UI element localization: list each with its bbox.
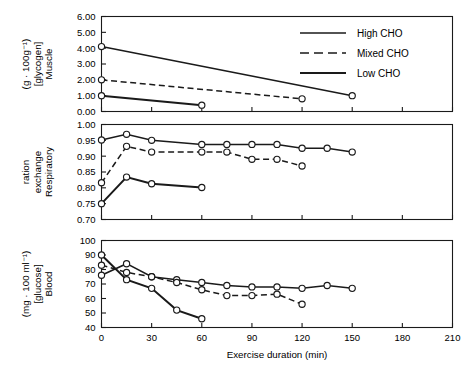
y-tick-label: 0.90	[77, 151, 96, 162]
series-line-mixed-cho	[102, 80, 303, 99]
y-axis-title-line: [glycogen]	[32, 41, 43, 86]
data-point-marker	[299, 285, 305, 291]
legend-label-mixed-cho: Mixed CHO	[357, 48, 409, 59]
panel-bottom: 405060708090100Blood[glucose](mg · 100 m…	[20, 235, 453, 333]
data-point-marker	[349, 285, 355, 291]
data-point-marker	[274, 156, 280, 162]
y-tick-label: 1.00	[77, 90, 96, 101]
data-point-marker	[274, 284, 280, 290]
y-tick-label: 100	[80, 235, 96, 246]
data-point-marker	[199, 149, 205, 155]
data-point-marker	[98, 272, 104, 278]
y-axis-title-line: (mg · 100 ml⁻¹)	[20, 251, 31, 318]
data-point-marker	[299, 163, 305, 169]
panel-middle: 0.700.750.800.850.900.951.00Respiratorye…	[20, 119, 453, 225]
data-point-marker	[349, 149, 355, 155]
data-point-marker	[98, 262, 104, 268]
data-point-marker	[149, 274, 155, 280]
data-point-marker	[174, 307, 180, 313]
series-line-high-cho	[102, 47, 353, 96]
data-point-marker	[249, 141, 255, 147]
y-tick-label: 60	[85, 293, 96, 304]
data-point-marker	[199, 102, 205, 108]
data-point-marker	[224, 282, 230, 288]
data-point-marker	[123, 261, 129, 267]
x-tick-label: 30	[146, 332, 157, 343]
y-tick-label: 0.85	[77, 166, 96, 177]
y-tick-label: 3.00	[77, 58, 96, 69]
y-tick-label: 2.00	[77, 74, 96, 85]
y-tick-label: 70	[85, 278, 96, 289]
data-point-marker	[299, 96, 305, 102]
x-tick-label: 120	[294, 332, 310, 343]
data-point-marker	[98, 137, 104, 143]
figure-container: 0.001.002.003.004.005.006.00Muscle[glyco…	[0, 0, 476, 378]
data-point-marker	[324, 282, 330, 288]
data-point-marker	[224, 149, 230, 155]
y-tick-label: 40	[85, 322, 96, 333]
y-tick-label: 0.00	[77, 106, 96, 117]
y-axis-title-line: Blood	[43, 271, 54, 296]
x-tick-label: 60	[196, 332, 207, 343]
y-tick-label: 1.00	[77, 119, 96, 130]
y-tick-label: 50	[85, 307, 96, 318]
series-line-low-cho	[102, 96, 202, 106]
data-point-marker	[274, 291, 280, 297]
data-point-marker	[123, 277, 129, 283]
data-point-marker	[224, 293, 230, 299]
y-axis-title-line: ration	[20, 160, 31, 185]
data-point-marker	[98, 180, 104, 186]
data-point-marker	[123, 269, 129, 275]
data-point-marker	[199, 287, 205, 293]
data-point-marker	[98, 77, 104, 83]
data-point-marker	[224, 141, 230, 147]
data-point-marker	[174, 279, 180, 285]
y-axis-title-line: Respiratory	[43, 147, 54, 197]
y-axis-title-line: (g · 100g⁻¹)	[20, 39, 31, 90]
y-axis-title-line: [glucose]	[32, 264, 43, 303]
data-point-marker	[299, 145, 305, 151]
data-point-marker	[249, 284, 255, 290]
data-point-marker	[199, 184, 205, 190]
data-point-marker	[199, 316, 205, 322]
data-point-marker	[349, 93, 355, 99]
y-tick-label: 0.70	[77, 214, 96, 225]
data-point-marker	[123, 143, 129, 149]
data-point-marker	[149, 149, 155, 155]
data-point-marker	[199, 279, 205, 285]
data-point-marker	[149, 181, 155, 187]
data-point-marker	[324, 145, 330, 151]
data-point-marker	[274, 141, 280, 147]
y-tick-label: 0.95	[77, 135, 96, 146]
data-point-marker	[98, 43, 104, 49]
data-point-marker	[199, 141, 205, 147]
legend: High CHOMixed CHOLow CHO	[300, 28, 409, 79]
data-point-marker	[123, 131, 129, 137]
legend-label-high-cho: High CHO	[357, 28, 403, 39]
multi-panel-line-chart: 0.001.002.003.004.005.006.00Muscle[glyco…	[0, 0, 476, 378]
data-point-marker	[249, 156, 255, 162]
data-point-marker	[149, 137, 155, 143]
data-point-marker	[98, 252, 104, 258]
data-point-marker	[299, 301, 305, 307]
y-tick-label: 0.80	[77, 182, 96, 193]
x-tick-label: 180	[394, 332, 410, 343]
x-axis-title: Exercise duration (min)	[227, 349, 328, 360]
y-tick-label: 90	[85, 249, 96, 260]
data-point-marker	[249, 293, 255, 299]
data-point-marker	[149, 285, 155, 291]
y-axis-title-line: Muscle	[43, 48, 54, 80]
y-axis-title-line: exchange	[32, 150, 43, 193]
x-tick-label: 0	[99, 332, 104, 343]
y-tick-label: 4.00	[77, 43, 96, 54]
data-point-marker	[98, 201, 104, 207]
data-point-marker	[98, 93, 104, 99]
y-tick-label: 5.00	[77, 27, 96, 38]
x-tick-label: 90	[247, 332, 258, 343]
y-tick-label: 80	[85, 264, 96, 275]
data-point-marker	[123, 174, 129, 180]
x-tick-label: 150	[344, 332, 360, 343]
y-tick-label: 6.00	[77, 11, 96, 22]
x-tick-label: 210	[445, 332, 461, 343]
y-tick-label: 0.75	[77, 198, 96, 209]
